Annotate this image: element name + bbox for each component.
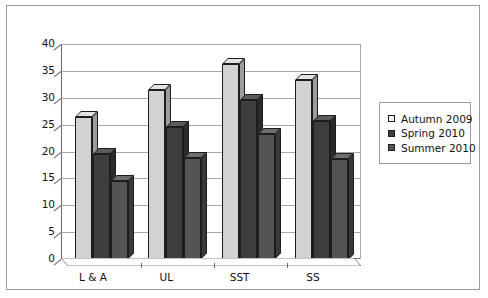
legend-item[interactable]: Spring 2010 bbox=[388, 127, 464, 139]
x-axis-label: SST bbox=[212, 271, 268, 283]
bar-face bbox=[240, 100, 257, 259]
plot-inner: 0510152025303540 bbox=[61, 44, 361, 259]
bar bbox=[93, 154, 110, 259]
y-axis-tick-label: 5 bbox=[15, 226, 55, 236]
legend-item-label: Autumn 2009 bbox=[401, 113, 473, 125]
x-axis-tick-mark bbox=[287, 263, 288, 268]
y-axis-tick-label: 15 bbox=[15, 172, 55, 182]
bar-face bbox=[166, 127, 183, 259]
bar-face bbox=[75, 117, 92, 259]
legend-swatch-icon bbox=[388, 115, 395, 122]
y-axis-tick-label: 35 bbox=[15, 65, 55, 75]
bar-face bbox=[222, 64, 239, 259]
legend-swatch-icon bbox=[388, 130, 395, 137]
bar-face bbox=[93, 154, 110, 259]
bar-side-face bbox=[348, 153, 354, 260]
bar bbox=[295, 80, 312, 259]
bar bbox=[111, 181, 128, 259]
legend-swatch-icon bbox=[388, 144, 395, 151]
legend-item[interactable]: Summer 2010 bbox=[388, 142, 464, 154]
bar-face bbox=[258, 134, 275, 259]
y-axis-tick-label: 40 bbox=[15, 38, 55, 48]
x-axis-label: L & A bbox=[65, 271, 121, 283]
y-axis-tick-label: 10 bbox=[15, 199, 55, 209]
bar-face bbox=[184, 158, 201, 259]
bar-group bbox=[295, 44, 361, 259]
bar bbox=[313, 121, 330, 259]
x-axis-tick-mark bbox=[214, 263, 215, 268]
bar-face bbox=[331, 159, 348, 260]
bar bbox=[240, 100, 257, 259]
chart-legend: Autumn 2009Spring 2010Summer 2010 bbox=[379, 102, 471, 164]
bar-side-face bbox=[275, 128, 281, 259]
y-axis-tick-label: 0 bbox=[15, 253, 55, 263]
y-axis-tick-label: 25 bbox=[15, 119, 55, 129]
bar-face bbox=[148, 90, 165, 259]
bar bbox=[75, 117, 92, 259]
bar bbox=[184, 158, 201, 259]
bar-side-face bbox=[201, 152, 207, 259]
bar bbox=[222, 64, 239, 259]
legend-item[interactable]: Autumn 2009 bbox=[388, 113, 464, 125]
x-axis-label: UL bbox=[138, 271, 194, 283]
bar-group bbox=[75, 44, 141, 259]
legend-item-label: Summer 2010 bbox=[401, 142, 476, 154]
y-axis-tick-label: 20 bbox=[15, 146, 55, 156]
legend-item-label: Spring 2010 bbox=[401, 127, 465, 139]
chart-frame: 0510152025303540 L & AULSSTSS Autumn 200… bbox=[6, 5, 480, 290]
bar-side-face bbox=[128, 175, 134, 259]
x-axis-tick-mark bbox=[141, 263, 142, 268]
y-axis-tick-label: 30 bbox=[15, 92, 55, 102]
bar-face bbox=[111, 181, 128, 259]
bar bbox=[148, 90, 165, 259]
bar bbox=[166, 127, 183, 259]
bar bbox=[331, 159, 348, 260]
bar bbox=[258, 134, 275, 259]
bar-group bbox=[222, 44, 288, 259]
plot-area: 0510152025303540 L & AULSSTSS bbox=[61, 44, 361, 259]
bar-group bbox=[148, 44, 214, 259]
bar-face bbox=[313, 121, 330, 259]
x-axis-label: SS bbox=[285, 271, 341, 283]
bar-face bbox=[295, 80, 312, 259]
chart-floor-3d bbox=[61, 258, 361, 266]
